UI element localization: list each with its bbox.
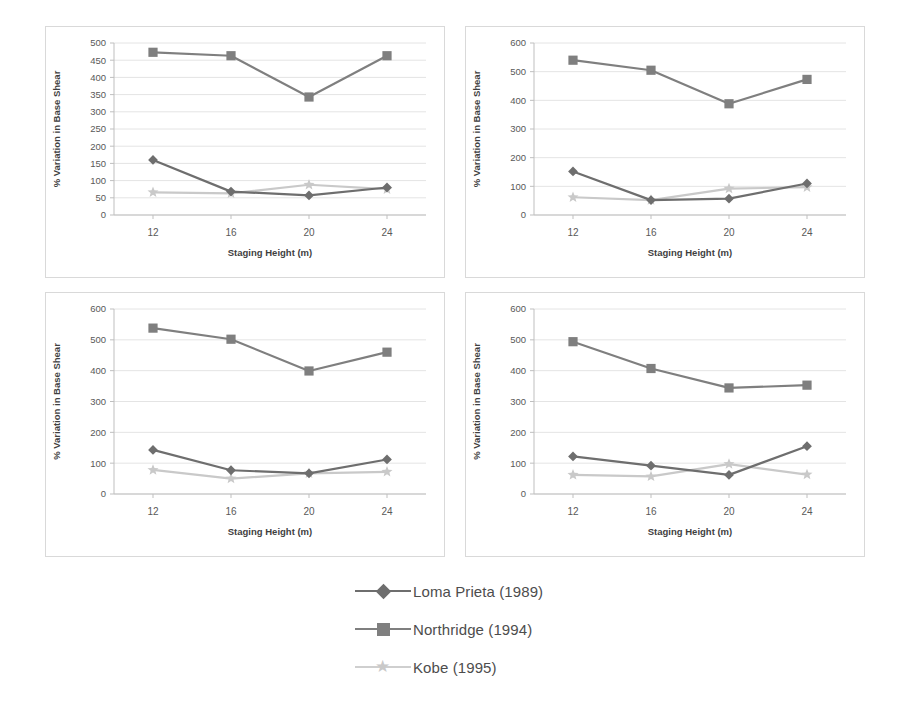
y-tick-label: 600 [510, 37, 526, 48]
y-tick-label: 0 [101, 209, 106, 220]
plot-bottom-left: 010020030040050060012162024Staging Heigh… [46, 293, 444, 556]
square-marker-icon [148, 324, 157, 333]
x-tick-label: 16 [225, 506, 237, 517]
x-axis-title: Staging Height (m) [648, 526, 732, 537]
square-marker-icon [355, 620, 411, 638]
x-tick-label: 20 [303, 227, 315, 238]
y-tick-label: 450 [90, 55, 106, 66]
y-tick-label: 100 [510, 181, 526, 192]
x-tick-label: 12 [567, 227, 579, 238]
diamond-marker-icon [355, 582, 411, 600]
y-tick-label: 200 [90, 141, 106, 152]
x-tick-label: 20 [303, 506, 315, 517]
square-marker-icon [724, 99, 733, 108]
star-marker-icon [567, 469, 578, 480]
square-marker-icon [382, 348, 391, 357]
series-diamond [568, 441, 812, 479]
star-marker-icon: ★ [355, 658, 411, 676]
series-star [147, 464, 392, 483]
y-tick-label: 200 [510, 427, 526, 438]
plot-bottom-right: 010020030040050060012162024Staging Heigh… [466, 293, 864, 556]
legend-label-kobe: Kobe (1995) [411, 659, 497, 676]
diamond-marker-icon [226, 465, 236, 475]
series-square [148, 48, 391, 102]
x-tick-label: 24 [801, 227, 813, 238]
chart-panel-bottom-right: 010020030040050060012162024Staging Heigh… [465, 292, 865, 557]
y-tick-label: 500 [510, 66, 526, 77]
y-axis-title: % Variation in Base Shear [471, 343, 482, 460]
x-tick-label: 12 [567, 506, 579, 517]
diamond-marker-icon [226, 187, 236, 197]
square-marker-icon [226, 335, 235, 344]
x-axis-title: Staging Height (m) [648, 247, 732, 258]
y-tick-label: 100 [510, 458, 526, 469]
y-tick-label: 50 [95, 192, 106, 203]
y-tick-label: 500 [510, 334, 526, 345]
star-marker-icon [147, 464, 158, 474]
legend-item-northridge: Northridge (1994) [355, 610, 655, 648]
x-tick-label: 20 [723, 506, 735, 517]
square-marker-icon [568, 337, 577, 346]
chart-panel-top-right: 010020030040050060012162024Staging Heigh… [465, 26, 865, 278]
chart-panel-bottom-left: 010020030040050060012162024Staging Heigh… [45, 292, 445, 557]
chart-legend: Loma Prieta (1989) Northridge (1994) ★ K… [355, 572, 655, 692]
square-marker-icon [724, 383, 733, 392]
x-tick-label: 16 [645, 506, 657, 517]
y-axis-title: % Variation in Base Shear [51, 343, 62, 460]
y-axis-title: % Variation in Base Shear [51, 70, 62, 187]
y-tick-label: 300 [90, 106, 106, 117]
y-tick-label: 0 [101, 488, 106, 499]
diamond-marker-icon [304, 468, 314, 478]
x-axis-title: Staging Height (m) [228, 526, 312, 537]
plot-top-left: 05010015020025030035040045050012162024St… [46, 27, 444, 277]
star-marker-icon [147, 187, 158, 197]
square-marker-icon [304, 366, 313, 375]
legend-item-kobe: ★ Kobe (1995) [355, 648, 655, 686]
diamond-marker-icon [802, 441, 812, 451]
x-tick-label: 24 [801, 506, 813, 517]
star-marker-icon [567, 191, 578, 201]
legend-label-loma-prieta: Loma Prieta (1989) [411, 583, 543, 600]
square-marker-icon [304, 92, 313, 101]
y-tick-label: 300 [510, 123, 526, 134]
legend-label-northridge: Northridge (1994) [411, 621, 532, 638]
diamond-marker-icon [568, 167, 578, 177]
x-axis-title: Staging Height (m) [228, 247, 312, 258]
y-tick-label: 150 [90, 158, 106, 169]
star-marker-icon [723, 458, 734, 468]
y-tick-label: 400 [510, 365, 526, 376]
square-marker-icon [568, 56, 577, 65]
star-marker-icon [723, 183, 734, 193]
y-tick-label: 250 [90, 123, 106, 134]
diamond-marker-icon [148, 445, 158, 455]
y-tick-label: 500 [90, 334, 106, 345]
x-tick-label: 12 [147, 506, 159, 517]
y-tick-label: 400 [90, 365, 106, 376]
square-marker-icon [226, 51, 235, 60]
square-marker-icon [802, 75, 811, 84]
y-tick-label: 300 [510, 396, 526, 407]
diamond-marker-icon [724, 470, 734, 480]
square-marker-icon [646, 364, 655, 373]
y-tick-label: 350 [90, 89, 106, 100]
legend-item-loma-prieta: Loma Prieta (1989) [355, 572, 655, 610]
series-square [148, 324, 391, 376]
star-marker-icon [801, 469, 812, 480]
chart-panel-top-left: 05010015020025030035040045050012162024St… [45, 26, 445, 278]
x-tick-label: 16 [225, 227, 237, 238]
y-tick-label: 600 [90, 303, 106, 314]
y-tick-label: 600 [510, 303, 526, 314]
y-tick-label: 400 [510, 95, 526, 106]
series-square [568, 337, 811, 392]
y-tick-label: 0 [521, 209, 526, 220]
x-tick-label: 16 [645, 227, 657, 238]
y-tick-label: 0 [521, 488, 526, 499]
y-tick-label: 200 [510, 152, 526, 163]
diamond-marker-icon [568, 451, 578, 461]
square-marker-icon [646, 66, 655, 75]
x-tick-label: 12 [147, 227, 159, 238]
y-tick-label: 100 [90, 175, 106, 186]
y-tick-label: 200 [90, 427, 106, 438]
star-marker-icon [381, 466, 392, 476]
square-marker-icon [382, 51, 391, 60]
